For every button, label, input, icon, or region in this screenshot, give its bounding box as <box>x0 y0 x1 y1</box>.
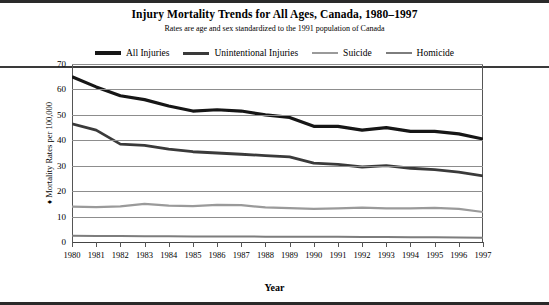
chart-subtitle: Rates are age and sex standardized to th… <box>0 24 549 33</box>
x-axis-tick <box>338 242 339 247</box>
y-axis-tick-label: 30 <box>44 161 66 171</box>
plot-area <box>72 64 483 242</box>
x-axis-tick <box>290 242 291 247</box>
legend-label: Homicide <box>417 48 454 58</box>
legend-label: Suicide <box>343 48 372 58</box>
legend-item: Unintentional Injuries <box>183 48 298 58</box>
x-axis-tick <box>169 242 170 247</box>
x-axis-tick <box>362 242 363 247</box>
x-axis-tick <box>72 242 73 247</box>
y-axis-tick-label: 10 <box>44 212 66 222</box>
gridline <box>72 140 483 141</box>
x-axis-tick <box>483 242 484 247</box>
y-axis-tick-label: 60 <box>44 84 66 94</box>
x-axis-tick-label: 1997 <box>468 250 498 260</box>
legend-swatch-icon <box>312 52 338 55</box>
x-axis-label: Year <box>0 282 549 293</box>
x-axis-tick <box>435 242 436 247</box>
series-line <box>72 236 483 238</box>
chart-figure: Injury Mortality Trends for All Ages, Ca… <box>0 0 549 305</box>
legend-item: Homicide <box>386 48 454 58</box>
series-line <box>72 77 483 139</box>
legend-swatch-icon <box>183 52 209 55</box>
legend-swatch-icon <box>95 51 121 54</box>
x-axis-tick <box>386 242 387 247</box>
series-line <box>72 204 483 212</box>
y-axis-tick-label: 20 <box>44 186 66 196</box>
legend-item: All Injuries <box>95 48 170 58</box>
gridline <box>72 89 483 90</box>
legend-item: Suicide <box>312 48 372 58</box>
x-axis-tick <box>459 242 460 247</box>
legend-swatch-icon <box>386 52 412 54</box>
x-axis-tick <box>241 242 242 247</box>
legend-label: All Injuries <box>126 48 170 58</box>
y-axis-bullet-icon: ♦ <box>45 199 54 203</box>
x-axis-tick <box>217 242 218 247</box>
x-axis-tick <box>265 242 266 247</box>
y-axis-tick-label: 70 <box>44 59 66 69</box>
x-axis-tick <box>314 242 315 247</box>
chart-legend: All InjuriesUnintentional InjuriesSuicid… <box>0 48 549 58</box>
gridline <box>72 115 483 116</box>
legend-label: Unintentional Injuries <box>214 48 298 58</box>
x-axis-tick <box>120 242 121 247</box>
chart-title: Injury Mortality Trends for All Ages, Ca… <box>0 8 549 20</box>
y-axis-tick-label: 40 <box>44 135 66 145</box>
x-axis-tick <box>193 242 194 247</box>
gridline <box>72 191 483 192</box>
x-axis-line: 1980198119821983198419851986198719881989… <box>72 242 483 243</box>
gridline <box>72 217 483 218</box>
y-axis-tick-label: 50 <box>44 110 66 120</box>
y-axis-tick-label: 0 <box>44 237 66 247</box>
top-rule <box>0 0 549 3</box>
x-axis-tick <box>145 242 146 247</box>
chart-lines <box>72 64 483 242</box>
gridline <box>72 166 483 167</box>
gridline <box>72 64 483 65</box>
x-axis-tick <box>96 242 97 247</box>
x-axis-tick <box>410 242 411 247</box>
